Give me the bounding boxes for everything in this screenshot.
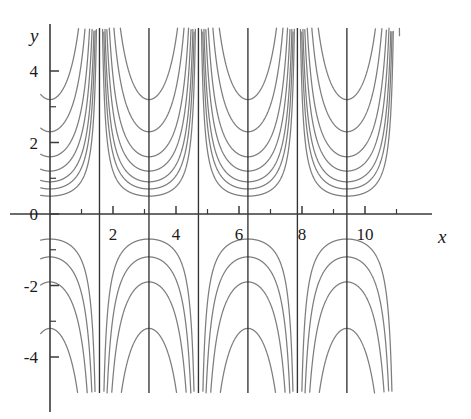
x-tick-label: 10 bbox=[357, 225, 374, 244]
contour-curve bbox=[41, 31, 95, 189]
contour-curve bbox=[41, 239, 95, 391]
x-tick-label: 8 bbox=[298, 225, 307, 244]
contour-curve bbox=[318, 28, 346, 100]
plot-canvas: 246810-4-2024 y x bbox=[0, 0, 471, 419]
contour-curve bbox=[121, 328, 148, 392]
contour-curve bbox=[347, 28, 389, 171]
contour-curve bbox=[149, 282, 186, 392]
contour-curve bbox=[112, 282, 149, 392]
contour-curve bbox=[120, 28, 148, 100]
contour-curve bbox=[41, 257, 92, 392]
y-tick-label: 4 bbox=[30, 62, 39, 81]
x-tick-label: 6 bbox=[235, 225, 244, 244]
y-tick-label: 0 bbox=[30, 205, 39, 224]
x-axis-label: x bbox=[437, 226, 447, 247]
contour-curve bbox=[149, 328, 176, 392]
curve-family bbox=[41, 28, 400, 393]
contour-curve bbox=[41, 29, 90, 157]
contour-curve bbox=[347, 29, 375, 100]
y-tick-label: -2 bbox=[24, 277, 38, 296]
contour-curve bbox=[347, 282, 384, 392]
y-tick-label: -4 bbox=[24, 348, 39, 367]
contour-curve bbox=[305, 30, 347, 172]
contour-curve bbox=[310, 282, 347, 392]
x-tick-label: 4 bbox=[172, 225, 181, 244]
contour-curve bbox=[149, 30, 191, 172]
contour-curve bbox=[219, 28, 247, 100]
contour-curve bbox=[41, 29, 79, 100]
y-axis-label: y bbox=[28, 25, 39, 46]
contour-curve bbox=[41, 282, 88, 393]
contour-curve bbox=[248, 30, 290, 172]
contour-curve bbox=[41, 29, 85, 132]
contour-curve bbox=[41, 328, 78, 392]
contour-curve bbox=[248, 328, 275, 392]
axes bbox=[10, 24, 432, 412]
contour-plot-figure: 246810-4-2024 y x bbox=[0, 0, 471, 419]
contour-curve bbox=[206, 30, 248, 172]
y-tick-label: 2 bbox=[30, 134, 39, 153]
contour-curve bbox=[347, 328, 375, 393]
contour-curve bbox=[41, 29, 92, 171]
contour-curve bbox=[107, 30, 149, 172]
contour-curve bbox=[248, 28, 276, 100]
contour-curve bbox=[220, 328, 247, 392]
contour-curve bbox=[149, 28, 177, 100]
contour-curve bbox=[211, 282, 248, 392]
contour-curve bbox=[248, 282, 285, 392]
x-tick-label: 2 bbox=[109, 225, 118, 244]
contour-curve bbox=[319, 328, 346, 392]
